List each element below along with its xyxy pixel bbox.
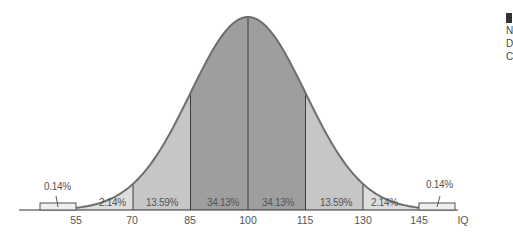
- label-seg-55-70: 2.14%: [99, 197, 126, 208]
- clipped-edge-marker: [506, 13, 512, 23]
- axis-label-iq: IQ: [457, 214, 468, 226]
- clipped-edge-text-3: C: [506, 51, 513, 63]
- band-100-115: [248, 17, 306, 210]
- label-seg-100-115: 34.13%: [262, 197, 295, 208]
- label-seg-85-100: 34.13%: [207, 197, 240, 208]
- sd-dividers: [76, 17, 421, 210]
- clipped-edge-text-2: D: [506, 38, 513, 50]
- tick-55: 55: [70, 214, 82, 226]
- tick-70: 70: [126, 214, 138, 226]
- label-seg-115-130: 13.59%: [320, 197, 353, 208]
- label-tail-right: 0.14%: [426, 179, 453, 190]
- label-seg-70-85: 13.59%: [146, 197, 179, 208]
- band-85-100: [191, 17, 249, 210]
- label-seg-130-145: 2.14%: [371, 197, 398, 208]
- tick-145: 145: [410, 214, 428, 226]
- tick-115: 115: [297, 214, 314, 226]
- label-tail-left: 0.14%: [44, 181, 71, 192]
- tick-100: 100: [239, 214, 257, 226]
- clipped-edge-text-1: N: [506, 25, 513, 37]
- tick-85: 85: [184, 214, 196, 226]
- tick-130: 130: [354, 214, 372, 226]
